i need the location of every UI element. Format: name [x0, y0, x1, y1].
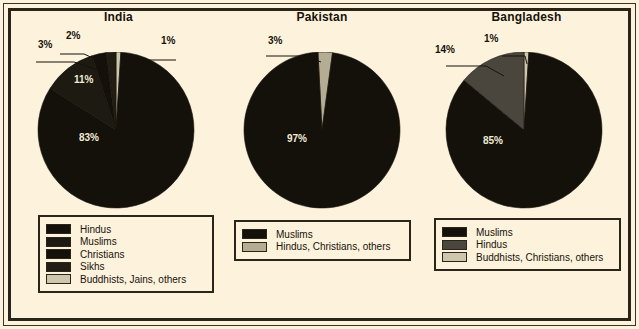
- legend-item: Christians: [46, 249, 204, 260]
- panel-bangladesh: Bangladesh 14% 1% 85% Muslims Hindus Bud…: [424, 0, 629, 329]
- legend-swatch-hindus: [442, 240, 467, 250]
- chart-title-pakistan: Pakistan: [222, 10, 422, 24]
- legend-swatch-buddhists-christians-others: [442, 252, 467, 262]
- pie-wrap-pakistan: [222, 52, 422, 212]
- chart-title-bangladesh: Bangladesh: [424, 10, 629, 24]
- legend-india: Hindus Muslims Christians Sikhs Buddhist…: [38, 215, 214, 293]
- legend-item: Sikhs: [46, 261, 204, 272]
- pct-label-bangladesh-1: 1%: [484, 33, 498, 44]
- legend-item: Hindus, Christians, others: [242, 241, 401, 252]
- legend-label-christians: Christians: [80, 249, 124, 260]
- legend-swatch-muslims: [442, 227, 467, 237]
- pct-label-bangladesh-85: 85%: [483, 135, 503, 146]
- legend-label-hindus: Hindus: [476, 239, 507, 250]
- pct-label-india-2: 2%: [66, 30, 80, 41]
- legend-swatch-hindus-christians-others: [242, 242, 267, 252]
- legend-item: Muslims: [442, 227, 611, 238]
- legend-bangladesh: Muslims Hindus Buddhists, Christians, ot…: [434, 218, 621, 271]
- legend-item: Muslims: [242, 229, 401, 240]
- legend-label-hindus-christians-others: Hindus, Christians, others: [276, 241, 391, 252]
- legend-label-buddhists-christians-others: Buddhists, Christians, others: [476, 252, 603, 263]
- pie-bangladesh: [424, 52, 629, 212]
- legend-label-muslims: Muslims: [80, 236, 117, 247]
- pct-label-india-11: 11%: [74, 74, 93, 85]
- pie-chart-figure: India 3% 2% 1% 11% 83% Hindus Muslims Ch…: [0, 0, 639, 329]
- pie-wrap-india: [16, 52, 221, 212]
- pct-label-india-3: 3%: [38, 39, 52, 50]
- legend-swatch-buddhists-jains-others: [46, 274, 71, 284]
- pie-pakistan: [222, 52, 422, 212]
- panel-pakistan: Pakistan 3% 97% Muslims Hindus, Christia…: [222, 0, 422, 329]
- legend-pakistan: Muslims Hindus, Christians, others: [234, 220, 411, 261]
- pct-label-india-1: 1%: [161, 35, 175, 46]
- legend-label-muslims: Muslims: [476, 227, 513, 238]
- legend-label-muslims: Muslims: [276, 229, 313, 240]
- pct-label-india-83: 83%: [79, 132, 99, 143]
- legend-item: Buddhists, Christians, others: [442, 252, 611, 263]
- chart-title-india: India: [16, 10, 221, 24]
- legend-swatch-christians: [46, 249, 71, 259]
- pct-label-pakistan-97: 97%: [287, 133, 307, 144]
- legend-swatch-muslims: [46, 237, 71, 247]
- pct-label-bangladesh-14: 14%: [435, 44, 455, 55]
- pie-india: [16, 52, 221, 212]
- pct-label-pakistan-3: 3%: [268, 35, 282, 46]
- legend-label-sikhs: Sikhs: [80, 261, 104, 272]
- legend-item: Hindus: [442, 239, 611, 250]
- panel-india: India 3% 2% 1% 11% 83% Hindus Muslims Ch…: [16, 0, 221, 329]
- legend-label-buddhists-jains-others: Buddhists, Jains, others: [80, 274, 186, 285]
- pie-wrap-bangladesh: [424, 52, 629, 212]
- legend-item: Muslims: [46, 236, 204, 247]
- legend-swatch-sikhs: [46, 262, 71, 272]
- legend-swatch-hindus: [46, 224, 71, 234]
- legend-item: Buddhists, Jains, others: [46, 274, 204, 285]
- legend-swatch-muslims: [242, 229, 267, 239]
- legend-item: Hindus: [46, 224, 204, 235]
- legend-label-hindus: Hindus: [80, 224, 111, 235]
